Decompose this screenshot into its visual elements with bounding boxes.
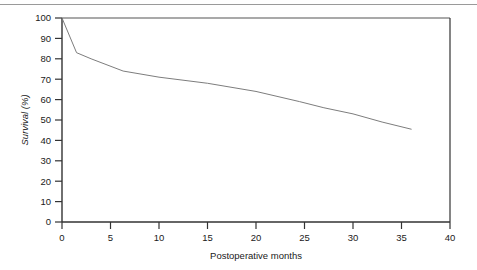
y-axis-title: Survival (%) [19, 94, 30, 145]
x-axis-tick-labels: 0 5 10 15 20 25 30 35 40 [59, 232, 455, 243]
y-tick-label-60: 60 [40, 94, 51, 105]
x-tick-label-40: 40 [445, 232, 456, 243]
x-axis-ticks [62, 222, 450, 229]
y-tick-label-40: 40 [40, 135, 51, 146]
x-tick-label-25: 25 [299, 232, 310, 243]
y-tick-label-100: 100 [35, 12, 51, 23]
y-tick-label-0: 0 [46, 216, 51, 227]
y-tick-label-10: 10 [40, 196, 51, 207]
y-axis-tick-labels: 0 10 20 30 40 50 60 70 80 90 100 [35, 12, 51, 227]
y-tick-label-70: 70 [40, 74, 51, 85]
plot-frame [62, 18, 450, 222]
survival-curve-line [62, 18, 411, 129]
survival-curve-chart: 0 10 20 30 40 50 60 70 80 90 100 0 [0, 0, 477, 270]
x-tick-label-15: 15 [202, 232, 213, 243]
y-tick-label-30: 30 [40, 155, 51, 166]
x-tick-label-0: 0 [59, 232, 64, 243]
y-tick-label-80: 80 [40, 53, 51, 64]
x-tick-label-10: 10 [154, 232, 165, 243]
figure-root: 0 10 20 30 40 50 60 70 80 90 100 0 [0, 0, 477, 270]
y-tick-label-90: 90 [40, 33, 51, 44]
y-tick-label-20: 20 [40, 176, 51, 187]
x-tick-label-5: 5 [108, 232, 113, 243]
x-tick-label-30: 30 [348, 232, 359, 243]
x-tick-label-20: 20 [251, 232, 262, 243]
y-tick-label-50: 50 [40, 114, 51, 125]
y-axis-ticks [55, 18, 62, 222]
x-axis-title: Postoperative months [210, 250, 302, 261]
x-tick-label-35: 35 [396, 232, 407, 243]
